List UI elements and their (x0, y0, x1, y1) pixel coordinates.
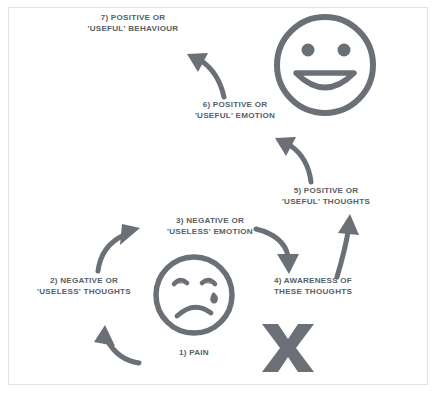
step-3-label: 3) NEGATIVE OR 'USELESS' EMOTION (143, 216, 277, 237)
step-2-label: 2) NEGATIVE OR 'USELESS' THOUGHTS (14, 276, 154, 297)
step-4-label: 4) AWARENESS OF THESE THOUGHTS (250, 276, 376, 297)
step-5-label: 5) POSITIVE OR 'USEFUL' THOUGHTS (252, 186, 400, 207)
step-1-label: 1) PAIN (143, 348, 245, 359)
step-7-label: 7) POSITIVE OR 'USEFUL' BEHAVIOUR (33, 13, 233, 34)
step-6-label: 6) POSITIVE OR 'USEFUL' EMOTION (160, 100, 310, 121)
diagram-canvas: 7) POSITIVE OR 'USEFUL' BEHAVIOUR 6) POS… (0, 0, 436, 393)
